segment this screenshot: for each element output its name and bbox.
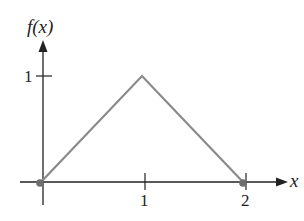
point-origin (36, 179, 44, 187)
y-axis-label: f(x) (27, 16, 53, 38)
x-axis-arrow-icon (276, 178, 288, 187)
x-tick-label-1: 1 (140, 191, 149, 210)
point-x2 (239, 179, 247, 187)
function-curve (41, 76, 243, 182)
y-axis-arrow-icon (39, 40, 48, 52)
x-axis-label: x (289, 170, 299, 191)
chart-canvas: f(x) x 1 1 2 (0, 0, 304, 221)
y-tick-label-1: 1 (24, 67, 33, 86)
x-tick-label-2: 2 (241, 191, 250, 210)
